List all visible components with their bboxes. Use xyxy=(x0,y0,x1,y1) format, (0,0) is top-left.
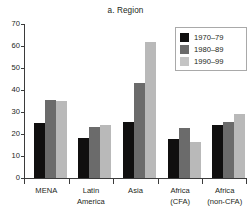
bar-group xyxy=(34,24,67,178)
x-axis-line xyxy=(24,178,247,179)
y-axis-tick-label: 70 xyxy=(12,19,20,28)
legend-entry: 1990–99 xyxy=(180,55,242,67)
bar xyxy=(168,139,179,178)
legend-color-swatch xyxy=(180,57,189,66)
bar xyxy=(134,83,145,178)
x-axis-separator-tick xyxy=(158,179,159,184)
y-axis-tick-mark xyxy=(21,46,24,47)
x-axis-label-line: MENA xyxy=(24,186,69,197)
y-axis-line xyxy=(24,24,25,179)
y-axis-tick-mark xyxy=(21,112,24,113)
y-axis-tick-mark xyxy=(21,24,24,25)
bar xyxy=(89,127,100,178)
bar xyxy=(56,101,67,178)
y-axis-tick-label: 40 xyxy=(12,85,20,94)
bar xyxy=(100,125,111,178)
x-axis-category-label: Africa(CFA) xyxy=(158,186,203,207)
bar-chart-figure: a. Region 010203040506070 MENALatinAmeri… xyxy=(0,0,251,222)
legend-label: 1970–79 xyxy=(194,33,224,42)
legend-entry: 1980–89 xyxy=(180,43,242,55)
bar xyxy=(212,125,223,179)
x-axis-category-label: LatinAmerica xyxy=(69,186,114,207)
y-axis-tick-label: 30 xyxy=(12,107,20,116)
bar xyxy=(45,100,56,178)
x-axis-end-tick xyxy=(24,179,25,184)
x-axis-category-label: MENA xyxy=(24,186,69,197)
legend-color-swatch xyxy=(180,33,189,42)
x-axis-end-tick xyxy=(246,179,247,184)
legend-label: 1980–89 xyxy=(194,45,224,54)
y-axis-tick-label: 60 xyxy=(12,41,20,50)
x-axis-category-label: Asia xyxy=(113,186,158,197)
bar xyxy=(223,122,234,178)
bar-group xyxy=(78,24,111,178)
bar xyxy=(123,122,134,179)
x-axis-label-line: Asia xyxy=(113,186,158,197)
x-axis-category-labels: MENALatinAmericaAsiaAfrica(CFA)Africa(no… xyxy=(24,186,247,220)
x-axis-separator-tick xyxy=(113,179,114,184)
bar-group xyxy=(123,24,156,178)
y-axis-tick-mark xyxy=(21,134,24,135)
legend-color-swatch xyxy=(180,45,189,54)
chart-legend: 1970–791980–891990–99 xyxy=(175,27,247,71)
y-axis-tick-label: 10 xyxy=(12,151,20,160)
x-axis-label-line: (non-CFA) xyxy=(202,197,247,208)
y-axis-tick-mark xyxy=(21,90,24,91)
y-axis-tick-label: 50 xyxy=(12,63,20,72)
bar xyxy=(78,138,89,178)
x-axis-label-line: Latin xyxy=(69,186,114,197)
y-axis-tick-mark xyxy=(21,68,24,69)
legend-label: 1990–99 xyxy=(194,57,224,66)
x-axis-separator-tick xyxy=(69,179,70,184)
x-axis-label-line: Africa xyxy=(158,186,203,197)
y-axis-tick-label: 0 xyxy=(16,173,20,182)
legend-entry: 1970–79 xyxy=(180,31,242,43)
x-axis-separator-tick xyxy=(202,179,203,184)
x-axis-label-line: (CFA) xyxy=(158,197,203,208)
x-axis-label-line: Africa xyxy=(202,186,247,197)
chart-title: a. Region xyxy=(0,6,251,15)
y-axis-tick-label: 20 xyxy=(12,129,20,138)
x-axis-category-label: Africa(non-CFA) xyxy=(202,186,247,207)
bar xyxy=(234,114,245,179)
y-axis-tick-mark xyxy=(21,156,24,157)
bar xyxy=(145,42,156,178)
bar xyxy=(34,123,45,178)
bar xyxy=(190,142,201,178)
x-axis-label-line: America xyxy=(69,197,114,208)
bar xyxy=(179,128,190,178)
